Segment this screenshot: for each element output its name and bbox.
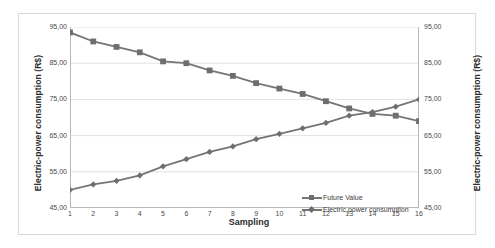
data-point-marker (183, 60, 189, 66)
data-point-marker (253, 136, 259, 142)
legend-diamond-icon (302, 205, 322, 214)
data-point-marker (114, 44, 120, 50)
legend-item-0[interactable]: Future Value (302, 192, 452, 203)
data-point-marker (416, 118, 419, 124)
x-tick-label: 8 (225, 210, 241, 217)
y-tick-label-right: 55,00 (424, 168, 458, 175)
legend-square-icon (302, 193, 322, 202)
x-tick-label: 6 (178, 210, 194, 217)
chart-legend: Future ValueElectric power consumption (302, 192, 452, 216)
data-point-marker (207, 68, 213, 74)
plot-area (70, 27, 419, 208)
data-point-marker (90, 39, 96, 45)
data-point-marker (323, 120, 329, 126)
data-point-marker (393, 113, 399, 119)
plot-svg (70, 27, 419, 208)
data-point-marker (346, 113, 352, 119)
data-point-marker (300, 125, 306, 131)
y-tick-label-right: 75,00 (424, 95, 458, 102)
data-point-marker (346, 106, 352, 112)
y-axis-ticks-left: 95,0085,0075,0065,0055,0045,00 (31, 27, 67, 208)
x-tick-label: 10 (271, 210, 287, 217)
data-point-marker (160, 58, 166, 64)
y-axis-ticks-right: 95,0085,0075,0065,0055,0045,00 (424, 27, 460, 208)
y-tick-label-left: 95,00 (33, 23, 67, 30)
data-point-marker (207, 149, 213, 155)
y-tick-label-left: 75,00 (33, 95, 67, 102)
y-tick-label-left: 85,00 (33, 59, 67, 66)
legend-item-1[interactable]: Electric power consumption (302, 204, 452, 215)
x-tick-label: 4 (132, 210, 148, 217)
y-tick-label-right: 85,00 (424, 59, 458, 66)
data-point-marker (253, 80, 259, 86)
data-point-marker (277, 86, 283, 92)
chart-container: Electric-power consumption (R$) Electric… (18, 13, 476, 235)
data-point-marker (230, 143, 236, 149)
y-tick-label-left: 55,00 (33, 168, 67, 175)
data-point-marker (160, 163, 166, 169)
legend-label: Electric power consumption (323, 206, 409, 213)
data-point-marker (137, 49, 143, 55)
data-point-marker (393, 104, 399, 110)
data-point-marker (137, 172, 143, 178)
series-line-0 (70, 32, 419, 121)
y-tick-label-right: 65,00 (424, 132, 458, 139)
data-point-marker (323, 98, 329, 104)
data-point-marker (300, 91, 306, 97)
x-axis-title: Sampling (69, 217, 429, 227)
y-axis-title-right: Electric-power consumption (R$) (472, 48, 482, 198)
series-line-1 (70, 99, 419, 189)
y-tick-label-right: 95,00 (424, 23, 458, 30)
x-tick-label: 1 (62, 210, 78, 217)
x-tick-label: 9 (248, 210, 264, 217)
x-tick-label: 7 (202, 210, 218, 217)
data-point-marker (183, 156, 189, 162)
data-point-marker (90, 181, 96, 187)
x-tick-label: 3 (109, 210, 125, 217)
data-point-marker (230, 73, 236, 79)
x-tick-label: 2 (85, 210, 101, 217)
data-point-marker (113, 178, 119, 184)
legend-label: Future Value (323, 194, 363, 201)
y-tick-label-left: 65,00 (33, 132, 67, 139)
data-point-marker (416, 96, 419, 102)
data-point-marker (70, 187, 73, 193)
x-tick-label: 5 (155, 210, 171, 217)
data-point-marker (70, 30, 73, 36)
